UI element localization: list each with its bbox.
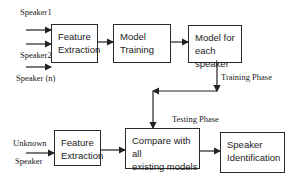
box-line: Model — [120, 30, 170, 43]
testing-phase-label: Testing Phase — [172, 114, 219, 124]
box-line: Model for — [195, 31, 241, 44]
box-line: Extraction — [58, 43, 97, 56]
feature-extraction-train-box: Feature Extraction — [51, 24, 98, 63]
input-speaker2-label: Speaker2 — [20, 50, 52, 60]
box-line: Feature — [61, 136, 100, 149]
box-line: Training — [120, 43, 170, 56]
box-line: existing models — [132, 160, 199, 173]
compare-models-box: Compare with all existing models — [125, 128, 200, 169]
box-line: Extraction — [61, 149, 100, 162]
box-line: Identification — [227, 151, 284, 164]
model-training-box: Model Training — [113, 24, 171, 63]
box-line: Feature — [58, 30, 97, 43]
box-line: Speaker — [227, 138, 284, 151]
input-speaker-label: Speaker — [15, 156, 42, 166]
training-phase-label: Training Phase — [221, 72, 272, 82]
model-each-speaker-box: Model for each speaker — [188, 25, 242, 63]
speaker-recognition-diagram: Speaker1 Speaker2 Speaker (n) Feature Ex… — [0, 0, 299, 183]
box-line: Compare with all — [132, 134, 199, 160]
input-unknown-label: Unknown — [13, 138, 47, 148]
input-speaker1-label: Speaker1 — [20, 7, 52, 17]
speaker-identification-box: Speaker Identification — [220, 132, 285, 173]
input-speaker-n-label: Speaker (n) — [16, 73, 55, 83]
feature-extraction-test-box: Feature Extraction — [54, 130, 101, 166]
box-line: each speaker — [195, 44, 241, 70]
